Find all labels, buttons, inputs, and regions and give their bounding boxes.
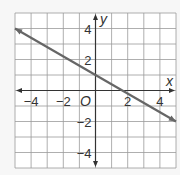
y-tick-label: 2 [84,53,91,68]
x-tick-label: 4 [156,94,163,109]
x-tick-label: −4 [24,94,39,109]
y-tick-label: −2 [77,115,92,130]
y-axis-label: y [99,11,108,27]
coordinate-graph: −4−22442−2−4 x y O [0,0,180,175]
x-axis-label: x [165,73,174,89]
origin-label: O [80,93,91,109]
y-tick-label: −4 [77,146,92,161]
y-tick-label: 4 [84,22,91,37]
x-tick-label: −2 [56,94,71,109]
